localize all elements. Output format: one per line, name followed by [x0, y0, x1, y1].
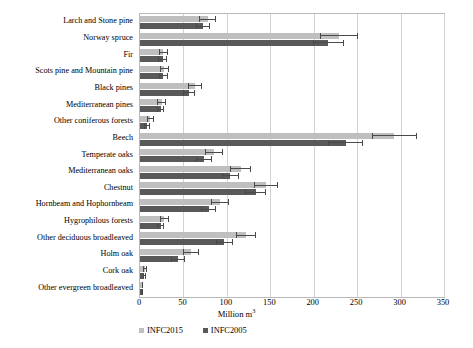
bar-infc2015 [140, 232, 246, 238]
bar-infc2005 [140, 156, 204, 162]
error-bar [183, 90, 195, 96]
legend-item[interactable]: INFC2005 [203, 326, 247, 335]
error-bar [372, 133, 417, 139]
category-label: Other evergreen broadleaved [38, 283, 133, 292]
chart-legend: INFC2015INFC2005 [139, 324, 247, 336]
error-bar [230, 166, 251, 172]
legend-label: INFC2005 [211, 326, 247, 335]
error-bar [157, 223, 164, 229]
error-bar [201, 206, 217, 212]
legend-swatch [203, 328, 208, 333]
bar-group [140, 14, 444, 31]
bar-infc2005 [140, 239, 224, 245]
category-label: Cork oak [103, 266, 133, 275]
category-label: Other deciduous broadleaved [37, 233, 133, 242]
bar-group [140, 280, 444, 297]
bar-infc2015 [140, 166, 241, 172]
error-bar [158, 56, 167, 62]
bar-infc2005 [140, 40, 328, 46]
bar-infc2015 [140, 16, 208, 22]
bar-infc2015 [140, 33, 339, 39]
bar-infc2015 [140, 182, 266, 188]
category-label: Larch and Stone pine [63, 16, 133, 25]
bar-group [140, 180, 444, 197]
error-bar [320, 33, 358, 39]
error-bar [147, 116, 154, 122]
bar-group [140, 31, 444, 48]
error-bar [254, 182, 278, 188]
plot-area [139, 13, 445, 298]
error-bar [328, 140, 363, 146]
error-bar [159, 73, 168, 79]
x-axis-title-text: Million m [218, 309, 253, 319]
bar-infc2005 [140, 173, 230, 179]
bar-group [140, 247, 444, 264]
category-label: Norway spruce [83, 33, 133, 42]
category-label: Black pines [95, 83, 133, 92]
error-bar [196, 156, 212, 162]
error-bar [199, 16, 216, 22]
category-label: Holm oak [100, 249, 133, 258]
x-axis-title-exponent: 3 [252, 307, 255, 314]
bar-infc2015 [140, 149, 214, 155]
error-bar [143, 273, 146, 279]
bar-infc2015 [140, 83, 195, 89]
bar-group [140, 230, 444, 247]
bar-group [140, 164, 444, 181]
category-label: Mediterranean oaks [68, 166, 133, 175]
error-bar [157, 99, 166, 105]
error-bar [160, 66, 169, 72]
bar-group [140, 264, 444, 281]
x-axis-title: Million m3 [0, 307, 473, 319]
bar-group [140, 64, 444, 81]
category-label: Mediterranean pines [66, 100, 133, 109]
error-bar [142, 282, 144, 288]
bar-group [140, 214, 444, 231]
bar-infc2015 [140, 199, 220, 205]
gridline [444, 14, 445, 297]
error-bar [196, 23, 210, 29]
bar-group [140, 114, 444, 131]
error-bar [157, 106, 164, 112]
category-label: Temperate oaks [82, 150, 133, 159]
error-bar [143, 266, 146, 272]
bar-group [140, 131, 444, 148]
bar-infc2005 [140, 140, 346, 146]
error-bar [205, 149, 222, 155]
bar-infc2005 [140, 189, 256, 195]
bar-infc2005 [140, 90, 189, 96]
legend-label: INFC2015 [147, 326, 183, 335]
error-bar [222, 173, 239, 179]
error-bar [144, 123, 149, 129]
error-bar [236, 232, 257, 238]
bar-group [140, 47, 444, 64]
error-bar [188, 83, 202, 89]
bar-group [140, 197, 444, 214]
bar-chart: Larch and Stone pineNorway spruceFirScot… [0, 0, 473, 348]
category-label: Hygrophilous forests [64, 216, 133, 225]
error-bar [313, 40, 344, 46]
category-label: Scots pine and Mountain pine [35, 66, 133, 75]
bar-group [140, 97, 444, 114]
category-label: Beech [113, 133, 133, 142]
category-label: Chestnut [104, 183, 133, 192]
category-label: Fir [123, 50, 133, 59]
error-bar [159, 49, 168, 55]
error-bar [141, 289, 143, 295]
legend-swatch [139, 328, 144, 333]
error-bar [211, 199, 228, 205]
category-axis-labels: Larch and Stone pineNorway spruceFirScot… [0, 13, 136, 296]
error-bar [245, 189, 266, 195]
error-bar [183, 249, 199, 255]
error-bar [171, 256, 185, 262]
bar-group [140, 81, 444, 98]
category-label: Hornbeam and Hophornbeam [36, 199, 133, 208]
error-bar [160, 216, 169, 222]
bar-infc2005 [140, 23, 203, 29]
bar-infc2015 [140, 133, 394, 139]
bar-group [140, 147, 444, 164]
category-label: Other coniferous forests [54, 116, 133, 125]
legend-item[interactable]: INFC2015 [139, 326, 183, 335]
bar-infc2005 [140, 206, 209, 212]
error-bar [216, 239, 233, 245]
